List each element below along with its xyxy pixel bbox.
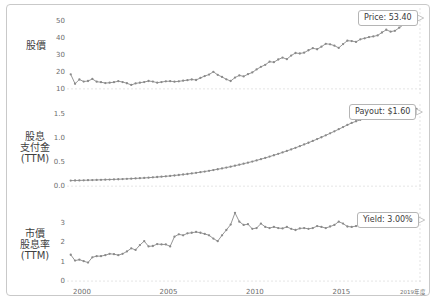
series-marker-price — [394, 30, 396, 32]
ytick-payout-0.5: 0.5 — [45, 158, 65, 166]
series-marker-price — [139, 82, 141, 84]
series-marker-yield — [238, 220, 240, 222]
series-marker-payout — [160, 176, 162, 178]
series-marker-yield — [186, 232, 188, 234]
series-marker-price — [368, 36, 370, 38]
callout-payout[interactable]: Payout: $1.60 — [349, 104, 416, 120]
series-marker-price — [173, 81, 175, 83]
series-marker-payout — [191, 172, 193, 174]
series-marker-payout — [100, 179, 102, 181]
xtick-last: 2019年度 — [400, 288, 426, 296]
series-marker-payout — [147, 177, 149, 179]
series-marker-yield — [316, 225, 318, 227]
series-marker-price — [277, 58, 279, 60]
series-marker-payout — [96, 179, 98, 181]
series-marker-price — [126, 82, 128, 84]
series-marker-yield — [251, 228, 253, 230]
series-marker-yield — [351, 226, 353, 228]
series-marker-price — [355, 41, 357, 43]
series-marker-payout — [286, 150, 288, 152]
series-marker-price — [307, 49, 309, 51]
series-marker-price — [83, 80, 85, 82]
series-marker-yield — [104, 254, 106, 256]
series-marker-yield — [212, 237, 214, 239]
series-marker-yield — [312, 227, 314, 229]
series-marker-yield — [225, 229, 227, 231]
series-marker-payout — [299, 145, 301, 147]
series-marker-yield — [208, 234, 210, 236]
series-marker-payout — [78, 179, 80, 181]
series-marker-yield — [217, 240, 219, 242]
series-marker-payout — [316, 138, 318, 140]
callout-yield[interactable]: Yield: 3.00% — [357, 212, 419, 228]
series-marker-yield — [199, 232, 201, 234]
series-marker-yield — [299, 227, 301, 229]
series-marker-yield — [134, 249, 136, 251]
series-marker-payout — [255, 159, 257, 161]
series-marker-price — [251, 71, 253, 73]
series-marker-yield — [121, 253, 123, 255]
series-marker-price — [130, 84, 132, 86]
series-marker-price — [78, 78, 80, 80]
series-marker-price — [273, 61, 275, 63]
series-marker-price — [316, 48, 318, 50]
series-marker-price — [359, 38, 361, 40]
series-marker-payout — [212, 169, 214, 171]
series-marker-yield — [169, 245, 171, 247]
series-marker-payout — [307, 142, 309, 144]
series-marker-yield — [264, 226, 266, 228]
series-marker-price — [364, 37, 366, 39]
series-marker-price — [286, 58, 288, 60]
series-marker-price — [234, 76, 236, 78]
series-marker-yield — [182, 234, 184, 236]
series-marker-payout — [104, 179, 106, 181]
panel-label-price: 股價 — [14, 40, 58, 51]
series-marker-price — [156, 82, 158, 84]
series-marker-payout — [91, 179, 93, 181]
series-marker-payout — [351, 122, 353, 124]
series-marker-price — [381, 31, 383, 33]
series-marker-payout — [130, 178, 132, 180]
series-marker-price — [147, 80, 149, 82]
series-marker-price — [264, 64, 266, 66]
series-marker-payout — [204, 170, 206, 172]
series-marker-price — [320, 46, 322, 48]
series-marker-payout — [121, 178, 123, 180]
series-marker-payout — [208, 170, 210, 172]
series-marker-yield — [91, 256, 93, 258]
series-marker-payout — [333, 130, 335, 132]
xtick-2005: 2005 — [160, 288, 178, 296]
chart-canvas — [0, 0, 438, 305]
series-marker-price — [221, 76, 223, 78]
series-marker-yield — [83, 260, 85, 262]
series-marker-yield — [117, 254, 119, 256]
series-marker-payout — [134, 177, 136, 179]
ytick-yield-2: 2 — [45, 238, 65, 246]
callout-price[interactable]: Price: 53.40 — [358, 10, 418, 26]
ytick-payout-1: 1.0 — [45, 134, 65, 142]
series-marker-payout — [273, 154, 275, 156]
series-marker-price — [134, 82, 136, 84]
series-marker-payout — [312, 140, 314, 142]
xtick-2000: 2000 — [73, 288, 91, 296]
series-marker-price — [217, 74, 219, 76]
series-marker-payout — [165, 175, 167, 177]
ytick-price-40: 40 — [45, 34, 65, 42]
series-marker-yield — [346, 225, 348, 227]
series-marker-yield — [286, 226, 288, 228]
series-marker-price — [113, 81, 115, 83]
series-marker-price — [385, 29, 387, 31]
series-marker-payout — [325, 134, 327, 136]
series-marker-payout — [355, 120, 357, 122]
series-marker-yield — [307, 228, 309, 230]
series-marker-payout — [178, 174, 180, 176]
series-marker-price — [165, 80, 167, 82]
series-marker-payout — [251, 160, 253, 162]
series-marker-yield — [221, 234, 223, 236]
series-marker-payout — [238, 164, 240, 166]
ytick-yield-3: 3 — [45, 219, 65, 227]
series-marker-payout — [117, 178, 119, 180]
series-marker-payout — [268, 155, 270, 157]
series-marker-price — [281, 56, 283, 58]
series-marker-price — [351, 40, 353, 42]
